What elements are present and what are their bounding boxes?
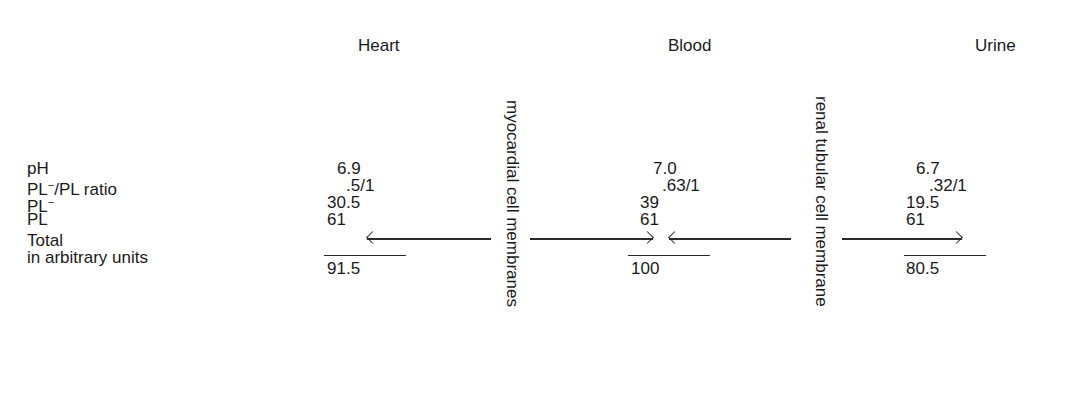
column-header-heart: Heart: [358, 36, 400, 56]
heart-pl: 61: [327, 211, 346, 228]
myocardial-membrane-label: myocardial cell membranes: [502, 100, 522, 307]
arrow-right-to-urine-icon: [842, 238, 962, 240]
heart-sum-rule: [324, 255, 406, 256]
arrow-right-to-blood-icon: [530, 238, 653, 240]
urine-sum-rule: [904, 255, 986, 256]
urine-pl: 61: [906, 211, 925, 228]
arrow-left-to-heart-icon: [367, 238, 491, 240]
row-label-total: Total: [27, 232, 63, 249]
blood-ph: 7.0: [653, 160, 677, 177]
blood-total: 100: [631, 260, 659, 277]
blood-ratio: .63/1: [662, 177, 700, 194]
column-header-blood: Blood: [668, 36, 711, 56]
blood-pl: 61: [640, 211, 659, 228]
renal-membrane-label: renal tubular cell membrane: [811, 96, 831, 307]
row-label-units: in arbitrary units: [27, 249, 148, 266]
urine-ratio: .32/1: [929, 177, 967, 194]
row-label-pl: PL: [27, 211, 48, 228]
blood-pl-minus: 39: [640, 194, 659, 211]
row-label-ph: pH: [27, 160, 49, 177]
heart-total: 91.5: [327, 260, 360, 277]
heart-pl-minus: 30.5: [327, 194, 360, 211]
heart-ph: 6.9: [337, 160, 361, 177]
column-header-urine: Urine: [975, 36, 1016, 56]
arrow-left-to-blood-icon: [669, 238, 791, 240]
blood-sum-rule: [628, 255, 710, 256]
ratio-rest-text: /PL ratio: [54, 180, 117, 199]
urine-ph: 6.7: [916, 160, 940, 177]
urine-pl-minus: 19.5: [906, 194, 939, 211]
pl-minus-superscript: −: [48, 196, 54, 208]
urine-total: 80.5: [906, 260, 939, 277]
heart-ratio: .5/1: [346, 177, 374, 194]
